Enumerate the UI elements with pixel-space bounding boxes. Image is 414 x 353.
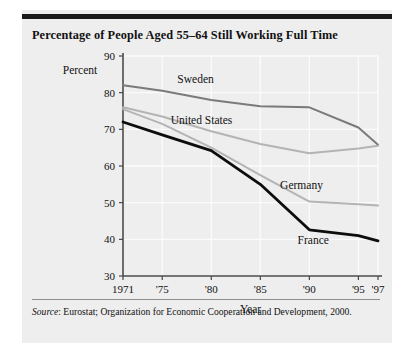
source-label: Source (32, 306, 58, 317)
line-chart: 304050607080901971'75'80'85'90'95'97Swed… (22, 10, 392, 343)
chart-plot-area: 304050607080901971'75'80'85'90'95'97Swed… (22, 10, 392, 343)
source-text: : Eurostat; Organization for Economic Co… (58, 306, 351, 317)
x-tick-label: '97 (372, 283, 385, 295)
y-tick-label: 40 (104, 233, 116, 245)
series-label-france: France (298, 234, 329, 246)
y-axis-title: Percent (63, 64, 98, 76)
y-tick-label: 70 (104, 123, 116, 135)
series-label-united-states: United States (171, 114, 233, 126)
x-tick-label: 1971 (112, 283, 134, 295)
figure-panel: Percentage of People Aged 55–64 Still Wo… (22, 10, 392, 343)
y-tick-label: 50 (104, 197, 116, 209)
series-label-sweden: Sweden (177, 73, 214, 85)
x-tick-label: '85 (254, 283, 267, 295)
x-tick-label: '75 (156, 283, 169, 295)
x-tick-label: '80 (205, 283, 218, 295)
x-tick-label: '90 (303, 283, 316, 295)
y-tick-label: 30 (104, 270, 116, 282)
x-tick-label: '95 (352, 283, 365, 295)
y-tick-label: 80 (104, 87, 116, 99)
y-tick-label: 60 (104, 160, 116, 172)
series-label-germany: Germany (280, 179, 323, 192)
figure-bottom-rule (32, 299, 380, 300)
figure-source-note: Source: Eurostat; Organization for Econo… (32, 306, 372, 318)
y-tick-label: 90 (104, 50, 116, 62)
